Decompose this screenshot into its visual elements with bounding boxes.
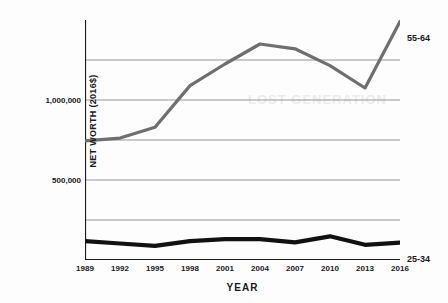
x-tick-label: 2007 (286, 264, 304, 273)
series-line-55-64 (85, 22, 400, 141)
x-tick-label: 1992 (111, 264, 129, 273)
chart-figure: LOST GENERATION NET WORTH (2016$) YEAR 5… (0, 0, 448, 303)
x-tick-label: 2016 (391, 264, 409, 273)
x-tick-label: 1995 (146, 264, 164, 273)
x-tick-label: 1998 (181, 264, 199, 273)
x-tick-label: 2013 (356, 264, 374, 273)
plot-area: NET WORTH (2016$) YEAR 500,0001,000,000 … (85, 20, 400, 260)
series-lines-group (85, 22, 400, 246)
x-tick-label: 2004 (251, 264, 269, 273)
x-axis-title: YEAR (85, 282, 400, 293)
x-tick-label: 2001 (216, 264, 234, 273)
y-axis-title: NET WORTH (2016$) (88, 41, 98, 201)
x-tick-label: 2010 (321, 264, 339, 273)
gridlines-group (85, 60, 400, 220)
series-label-55-64: 55-64 (407, 33, 430, 43)
series-label-25-34: 25-34 (407, 254, 430, 264)
line-chart-svg (85, 20, 400, 260)
y-tick-label: 1,000,000 (45, 96, 81, 105)
y-tick-label: 500,000 (52, 176, 81, 185)
series-line-25-34 (85, 236, 400, 246)
x-tick-label: 1989 (76, 264, 94, 273)
